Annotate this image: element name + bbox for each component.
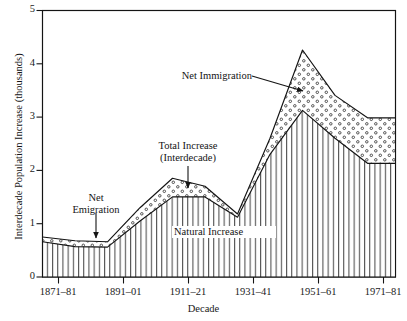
annotation-net-emigration: Net Emigration bbox=[52, 192, 140, 216]
annotation-net-immigration: Net Immigration bbox=[158, 70, 252, 82]
annotation-net-emigration-line2: Emigration bbox=[52, 204, 140, 216]
y-tick-4: 4 bbox=[17, 57, 35, 68]
annotation-total-increase-line1: Total Increase bbox=[128, 140, 248, 152]
annotation-net-immigration-line1: Net Immigration bbox=[158, 70, 252, 82]
annotation-net-emigration-line1: Net bbox=[52, 192, 140, 204]
x-tick-1871-81: 1871–81 bbox=[23, 286, 93, 297]
annotation-natural-increase-line1: Natural Increase bbox=[174, 226, 274, 238]
x-axis-label: Decade bbox=[0, 303, 407, 314]
y-tick-0: 0 bbox=[17, 270, 35, 281]
y-tick-2: 2 bbox=[17, 163, 35, 174]
chart-figure: Interdecade Population Increase (thousan… bbox=[0, 0, 407, 321]
x-axis-ticks bbox=[59, 277, 384, 284]
x-tick-1911-21: 1911–21 bbox=[153, 286, 223, 297]
y-tick-5: 5 bbox=[17, 3, 35, 14]
y-tick-1: 1 bbox=[17, 217, 35, 228]
annotation-natural-increase: Natural Increase bbox=[172, 226, 276, 238]
x-tick-1891-01: 1891–01 bbox=[88, 286, 158, 297]
y-tick-3: 3 bbox=[17, 110, 35, 121]
annotation-total-increase: Total Increase (Interdecade) bbox=[128, 140, 248, 164]
x-tick-1971-81: 1971–81 bbox=[348, 286, 407, 297]
x-tick-1951-61: 1951–61 bbox=[283, 286, 353, 297]
x-tick-1931-41: 1931–41 bbox=[218, 286, 288, 297]
y-axis-ticks bbox=[37, 11, 43, 278]
annotation-total-increase-line2: (Interdecade) bbox=[128, 152, 248, 164]
